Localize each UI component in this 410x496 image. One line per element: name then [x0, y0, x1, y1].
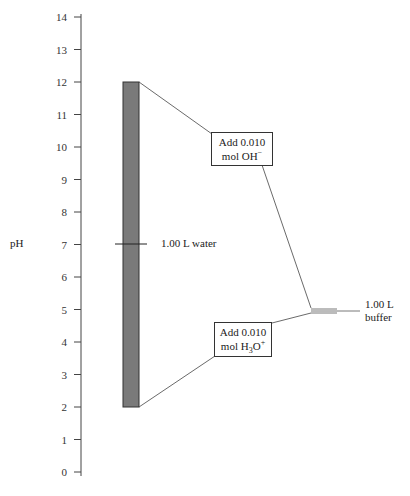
axis-label-ph: pH [10, 237, 23, 250]
axis-tick-label: 2 [62, 401, 68, 413]
add-acid-box: Add 0.010 mol H3O+ [214, 322, 272, 357]
axis-tick-label: 3 [62, 369, 68, 381]
buffer-ph-marker [311, 309, 360, 313]
axis-tick-label: 9 [62, 174, 68, 186]
axis-tick-label: 5 [62, 304, 68, 316]
connector-base-box-to-buffer [262, 165, 311, 308]
connector-water-bottom-to-acid-box [139, 356, 215, 407]
axis-tick-label: 11 [56, 109, 67, 121]
connector-acid-box-to-buffer [272, 313, 311, 323]
buffer-label-line2: buffer [365, 311, 394, 324]
axis-tick-label: 6 [62, 271, 68, 283]
axis-tick-label: 14 [56, 11, 68, 23]
add-acid-formula-h: mol H [221, 340, 249, 352]
axis-ticks: 01234567891011121314 [56, 11, 81, 478]
axis-tick-label: 4 [62, 336, 68, 348]
add-acid-charge: + [261, 338, 266, 347]
axis-tick-label: 13 [56, 44, 68, 56]
axis-tick-label: 7 [62, 239, 68, 251]
buffer-label-line1: 1.00 L [365, 298, 394, 311]
add-base-line1: Add 0.010 [212, 135, 272, 149]
add-base-box: Add 0.010 mol OH− [211, 132, 273, 166]
add-acid-formula-o: O [253, 340, 261, 352]
buffer-label: 1.00 L buffer [365, 298, 394, 324]
add-base-charge: − [258, 148, 263, 157]
axis-tick-label: 8 [62, 206, 68, 218]
add-base-formula: mol OH [222, 150, 258, 162]
add-acid-line2: mol H3O+ [215, 339, 271, 353]
water-label: 1.00 L water [161, 237, 217, 250]
add-base-line2: mol OH− [212, 149, 272, 163]
connector-water-top-to-base-box [139, 82, 212, 134]
axis-tick-label: 1 [62, 434, 68, 446]
axis-tick-label: 12 [56, 76, 67, 88]
axis-tick-label: 0 [62, 466, 68, 478]
add-acid-line1: Add 0.010 [215, 325, 271, 339]
axis-tick-label: 10 [56, 141, 68, 153]
